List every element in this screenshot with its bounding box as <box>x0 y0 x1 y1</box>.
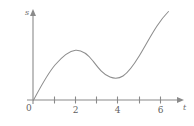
origin-label: 0 <box>26 104 32 113</box>
position-time-graph-figure: s t 0 2 4 6 <box>0 0 194 126</box>
x-axis-label: t <box>183 104 186 112</box>
x-tick-label-4: 4 <box>113 106 123 115</box>
x-tick-label-2: 2 <box>71 106 81 115</box>
x-tick-label-6: 6 <box>156 106 166 115</box>
y-axis-label: s <box>25 9 29 17</box>
y-axis-arrow-icon <box>30 9 36 16</box>
position-curve <box>34 12 169 101</box>
